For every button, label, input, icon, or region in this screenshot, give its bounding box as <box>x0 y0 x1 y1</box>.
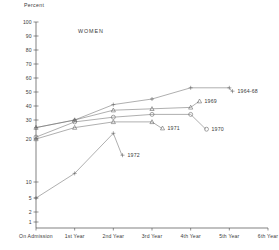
y-tick-label: 80 <box>26 47 32 53</box>
y-tick-label: 100 <box>23 19 32 25</box>
y-tick-label: 50 <box>26 89 32 95</box>
chart-svg: 100908070605040302010521On Admission1st … <box>0 0 279 250</box>
series-1971: 1971 <box>34 120 180 141</box>
y-tick-label: 30 <box>26 117 32 123</box>
series-1970: 1970 <box>34 112 224 139</box>
series-label-1969: 1969 <box>205 98 217 104</box>
y-tick-label: 1 <box>29 219 32 225</box>
y-tick-label: 2 <box>29 209 32 215</box>
y-tick-label: 5 <box>29 195 32 201</box>
y-tick-label: 60 <box>26 75 32 81</box>
series-label-1970: 1970 <box>212 126 224 132</box>
series-label-1972: 1972 <box>128 152 140 158</box>
y-tick-label: 90 <box>26 33 32 39</box>
series-1972: 1972 <box>34 131 140 200</box>
chart-container: Percent WOMEN 100908070605040302010521On… <box>0 0 279 250</box>
x-tick-label: 4th Year <box>181 233 201 239</box>
y-tick-label: 10 <box>26 179 32 185</box>
data-point-plus-icon <box>34 196 38 200</box>
series-1964-68: 1964-68 <box>34 86 258 130</box>
data-point-plus-icon <box>150 97 154 101</box>
series-label-1964-68: 1964-68 <box>238 88 258 94</box>
data-point-plus-icon <box>111 103 115 107</box>
series-label-1971: 1971 <box>168 125 180 131</box>
x-tick-label: On Admission <box>19 233 53 239</box>
x-tick-label: 5th Year <box>219 233 239 239</box>
x-tick-label: 6th Year <box>258 233 278 239</box>
data-point-plus-icon <box>189 86 193 90</box>
axis-lines <box>36 22 268 228</box>
x-tick-label: 3rd Year <box>142 233 163 239</box>
data-point-circle-icon <box>205 127 209 131</box>
x-tick-label: 1st Year <box>65 233 85 239</box>
y-tick-label: 20 <box>26 136 32 142</box>
x-tick-label: 2nd Year <box>102 233 124 239</box>
y-tick-label: 40 <box>26 103 32 109</box>
y-tick-label: 70 <box>26 61 32 67</box>
